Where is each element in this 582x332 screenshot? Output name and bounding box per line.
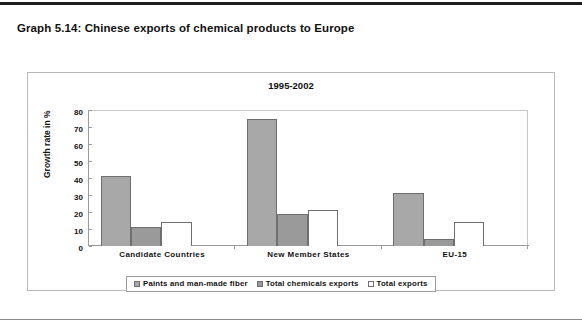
legend-label: Total exports [377, 279, 428, 288]
legend-item[interactable]: Paints and man-made fiber [134, 279, 248, 288]
legend-label: Paints and man-made fiber [143, 279, 248, 288]
legend-swatch-icon [257, 281, 263, 287]
page-bottom-rule [0, 319, 582, 320]
y-axis-tick: 10 [74, 220, 88, 238]
y-axis-tick: 50 [74, 152, 88, 170]
y-axis-tick-label: 40 [74, 176, 83, 185]
y-axis-tick: 70 [74, 118, 88, 136]
y-axis-tick-label: 50 [74, 159, 83, 168]
bar[interactable] [454, 222, 484, 246]
figure-caption: Graph 5.14: Chinese exports of chemical … [17, 22, 354, 34]
bar[interactable] [393, 193, 423, 246]
y-axis-tick-label: 10 [74, 227, 83, 236]
page-top-rule [0, 2, 582, 5]
bar[interactable] [308, 210, 338, 246]
y-axis-tick-label: 20 [74, 210, 83, 219]
chart-title: 1995-2002 [28, 80, 554, 91]
plot-wrapper: 80706050403020100 Candidate CountriesNew… [88, 110, 528, 246]
y-axis-tick: 60 [74, 135, 88, 153]
bar[interactable] [424, 239, 454, 246]
y-axis-title: Growth rate in % [42, 110, 52, 178]
legend-label: Total chemicals exports [266, 279, 359, 288]
y-axis-tick: 80 [74, 101, 88, 119]
x-axis-group-label: Candidate Countries [89, 250, 235, 259]
bar-group: New Member States [235, 110, 381, 246]
chart-frame: 1995-2002 Growth rate in % 8070605040302… [27, 72, 555, 291]
y-axis-tick: 30 [74, 186, 88, 204]
legend-item[interactable]: Total chemicals exports [257, 279, 359, 288]
y-axis-tick-label: 0 [79, 244, 83, 253]
chart-legend: Paints and man-made fiberTotal chemicals… [126, 276, 436, 292]
bar-group-bars [382, 110, 528, 246]
x-axis-tick-mark [234, 246, 235, 249]
legend-swatch-icon [368, 281, 374, 287]
y-axis-tick-label: 70 [74, 125, 83, 134]
bar[interactable] [247, 119, 277, 247]
x-axis-group-label: EU-15 [382, 250, 528, 259]
x-axis-tick-mark [527, 246, 528, 249]
y-axis-tick: 0 [79, 237, 88, 255]
y-axis-tick: 40 [74, 169, 88, 187]
bar-group-bars [89, 110, 235, 246]
x-axis-group-label: New Member States [235, 250, 381, 259]
bar-groups: Candidate CountriesNew Member StatesEU-1… [89, 110, 528, 246]
bar[interactable] [161, 222, 191, 246]
y-axis-tick-label: 80 [74, 108, 83, 117]
y-axis-tick-mark [89, 246, 92, 247]
y-axis-tick-label: 60 [74, 142, 83, 151]
bar-group-bars [235, 110, 381, 246]
bar[interactable] [101, 176, 131, 246]
bar-group: EU-15 [382, 110, 528, 246]
bar-group: Candidate Countries [89, 110, 235, 246]
y-axis-tick: 20 [74, 203, 88, 221]
bar[interactable] [277, 214, 307, 246]
legend-swatch-icon [134, 281, 140, 287]
y-axis-tick-label: 30 [74, 193, 83, 202]
x-axis-tick-mark [381, 246, 382, 249]
bar[interactable] [131, 227, 161, 246]
legend-item[interactable]: Total exports [368, 279, 428, 288]
